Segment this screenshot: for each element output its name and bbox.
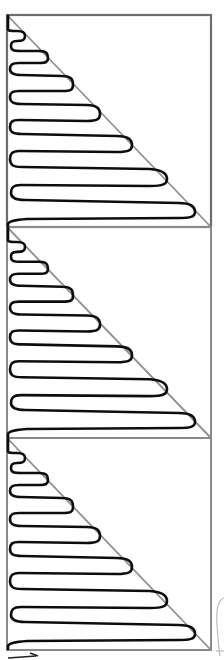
serpentine-curve bbox=[8, 16, 195, 227]
diagonal-line bbox=[8, 228, 210, 437]
serpentine-curve bbox=[8, 438, 195, 649]
panel-2 bbox=[7, 227, 211, 438]
panel-1 bbox=[7, 15, 211, 227]
diagonal-line bbox=[8, 439, 210, 649]
serpentine-curve bbox=[8, 227, 195, 437]
cropped-curve bbox=[217, 598, 224, 656]
serpentine-triangle-diagram bbox=[0, 0, 224, 660]
panel-3 bbox=[7, 438, 211, 650]
arrow-icon bbox=[8, 653, 38, 658]
